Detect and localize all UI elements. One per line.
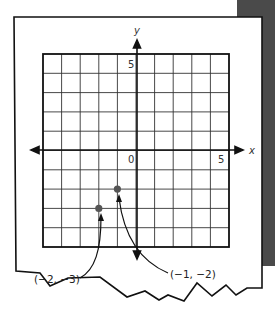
point-label-minus2-minus3: (−2, −3): [34, 273, 80, 285]
coordinate-plane-figure: x y 0 5 5 (−1, −2) (−2, −3): [0, 0, 275, 316]
x-max-tick-label: 5: [218, 154, 224, 165]
data-point: [95, 205, 102, 212]
data-point: [114, 186, 121, 193]
x-axis-label: x: [248, 145, 255, 156]
point-label-minus1-minus2: (−1, −2): [170, 268, 216, 280]
origin-tick-label: 0: [128, 154, 134, 165]
y-axis-label: y: [133, 25, 141, 36]
y-max-tick-label: 5: [128, 59, 134, 70]
